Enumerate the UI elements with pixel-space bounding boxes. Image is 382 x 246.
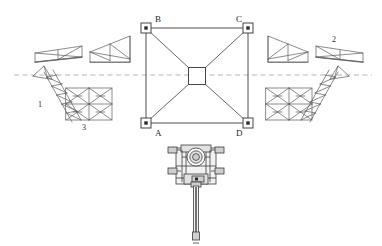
mechanism-lug-upper-left [168, 147, 177, 153]
mechanism-lug-lower-left [168, 168, 177, 174]
corner-label-a: A [155, 128, 162, 138]
corner-node-b [141, 23, 151, 33]
corner-label-c: C [236, 14, 242, 24]
mechanism-lug-lower-right [215, 168, 224, 174]
component-label-3: 3 [82, 123, 86, 132]
corner-label-d: D [236, 128, 243, 138]
mechanism-bearing-inner [193, 154, 200, 161]
corner-node-a [141, 118, 151, 128]
component-label-1: 1 [38, 100, 42, 109]
corner-label-b: B [155, 14, 161, 24]
mechanism-port-dot [195, 178, 198, 181]
truss-assembly-diagram: B C A D [0, 0, 382, 246]
x-braced-panel-left [66, 88, 112, 120]
mechanism-shaft-tip [193, 232, 200, 240]
corner-node-c [243, 23, 253, 33]
corner-node-d [243, 118, 253, 128]
component-label-2: 2 [332, 35, 336, 44]
x-braced-panel-right [266, 88, 312, 120]
mechanism-lug-upper-right [215, 147, 224, 153]
diagram-canvas: B C A D [0, 0, 382, 246]
central-hub [189, 68, 206, 85]
